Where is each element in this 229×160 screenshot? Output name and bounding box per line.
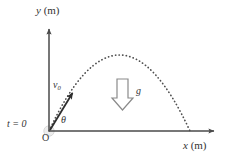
figure-canvas (0, 0, 229, 160)
x-axis-symbol: x (183, 139, 188, 151)
origin-label: O (42, 133, 49, 143)
gravity-arrow (112, 79, 133, 110)
y-axis-unit: (m) (44, 4, 60, 16)
x-axis-unit: (m) (191, 139, 207, 151)
v0-subscript: 0 (58, 84, 61, 91)
x-axis-label: x (m) (183, 140, 207, 151)
launch-angle-label: θ (61, 115, 66, 125)
v0-symbol: v (53, 79, 57, 90)
initial-velocity-label: v0 (53, 80, 61, 91)
y-axis-label: y (m) (36, 5, 60, 16)
y-axis-symbol: y (36, 4, 41, 16)
gravity-label: g (136, 86, 141, 96)
time-zero-label: t = 0 (7, 119, 27, 129)
projectile-motion-figure: y (m) x (m) t = 0 O v0 θ g (0, 0, 229, 160)
